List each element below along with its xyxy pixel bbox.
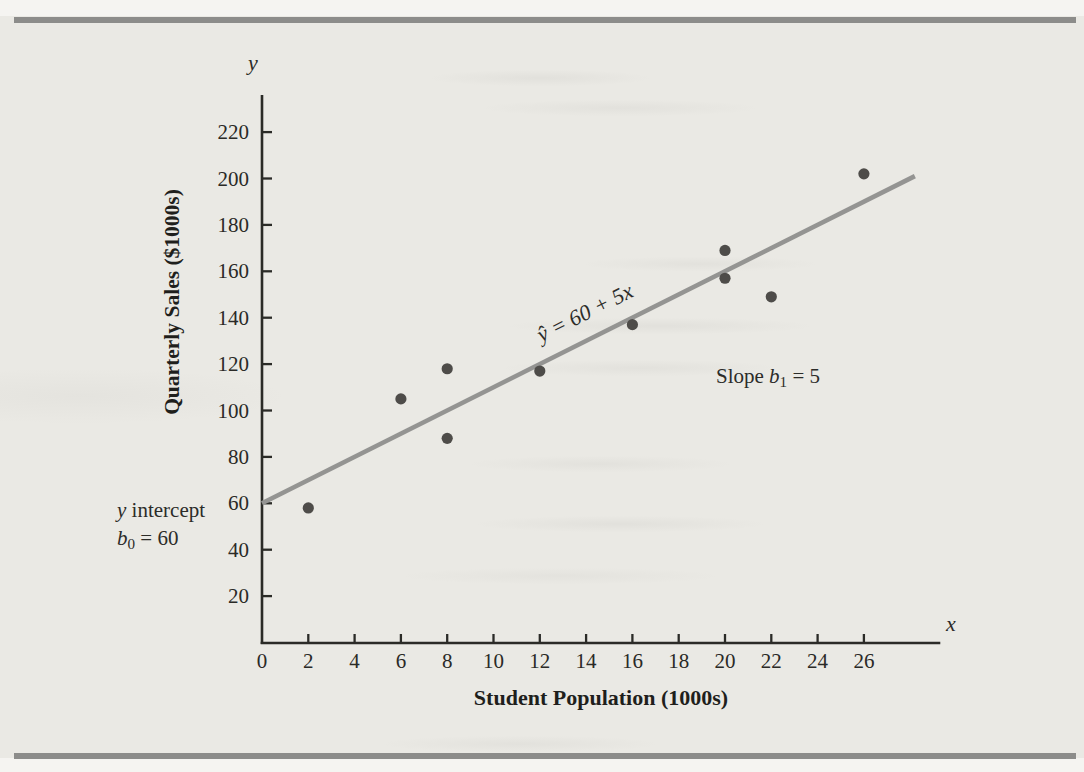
data-point xyxy=(627,319,638,330)
y-tick-label: 200 xyxy=(218,167,250,191)
intercept-value: = 60 xyxy=(135,526,178,550)
x-tick-label: 0 xyxy=(257,649,268,673)
data-point xyxy=(766,291,777,302)
data-point xyxy=(303,502,314,513)
x-axis-letter: x xyxy=(946,611,956,637)
x-tick-label: 26 xyxy=(853,649,874,673)
x-tick-label: 14 xyxy=(576,649,598,673)
x-tick-label: 6 xyxy=(396,649,407,673)
intercept-subscript: 0 xyxy=(128,536,136,552)
data-point xyxy=(442,433,453,444)
y-tick-label: 80 xyxy=(228,445,249,469)
slope-symbol: b xyxy=(769,364,780,388)
x-tick-label: 18 xyxy=(668,649,689,673)
x-tick-label: 4 xyxy=(349,649,360,673)
y-tick-label: 160 xyxy=(218,259,250,283)
data-point xyxy=(442,363,453,374)
x-tick-label: 16 xyxy=(622,649,643,673)
slope-text: Slope xyxy=(716,364,769,388)
intercept-b-symbol: b xyxy=(117,526,128,550)
intercept-y-symbol: y xyxy=(117,498,126,522)
x-tick-label: 8 xyxy=(442,649,453,673)
y-tick-label: 40 xyxy=(228,538,249,562)
y-axis-letter: y xyxy=(248,50,258,76)
x-tick-label: 22 xyxy=(761,649,782,673)
y-axis-title: Quarterly Sales ($1000s) xyxy=(160,189,185,415)
data-point xyxy=(719,273,730,284)
x-axis-title: Student Population (1000s) xyxy=(474,685,728,711)
y-tick-label: 180 xyxy=(218,213,250,237)
slope-value: = 5 xyxy=(787,364,820,388)
y-tick-label: 20 xyxy=(228,584,249,608)
y-tick-label: 120 xyxy=(218,352,250,376)
data-point xyxy=(395,393,406,404)
x-tick-label: 24 xyxy=(807,649,829,673)
regression-line xyxy=(262,176,915,503)
y-tick-label: 220 xyxy=(218,120,250,144)
x-tick-label: 12 xyxy=(529,649,550,673)
y-tick-label: 140 xyxy=(218,306,250,330)
x-tick-label: 20 xyxy=(715,649,736,673)
data-point xyxy=(534,365,545,376)
y-tick-label: 60 xyxy=(228,491,249,515)
x-tick-label: 2 xyxy=(303,649,314,673)
slope-annotation: Slope b1 = 5 xyxy=(716,364,820,389)
x-tick-label: 10 xyxy=(483,649,504,673)
data-point xyxy=(719,245,730,256)
intercept-text: intercept xyxy=(126,498,205,522)
y-tick-label: 100 xyxy=(218,399,250,423)
textbook-page: 2040608010012014016018020022002468101214… xyxy=(0,0,1084,772)
data-point xyxy=(858,168,869,179)
y-intercept-annotation: y intercept b0 = 60 xyxy=(117,497,205,552)
